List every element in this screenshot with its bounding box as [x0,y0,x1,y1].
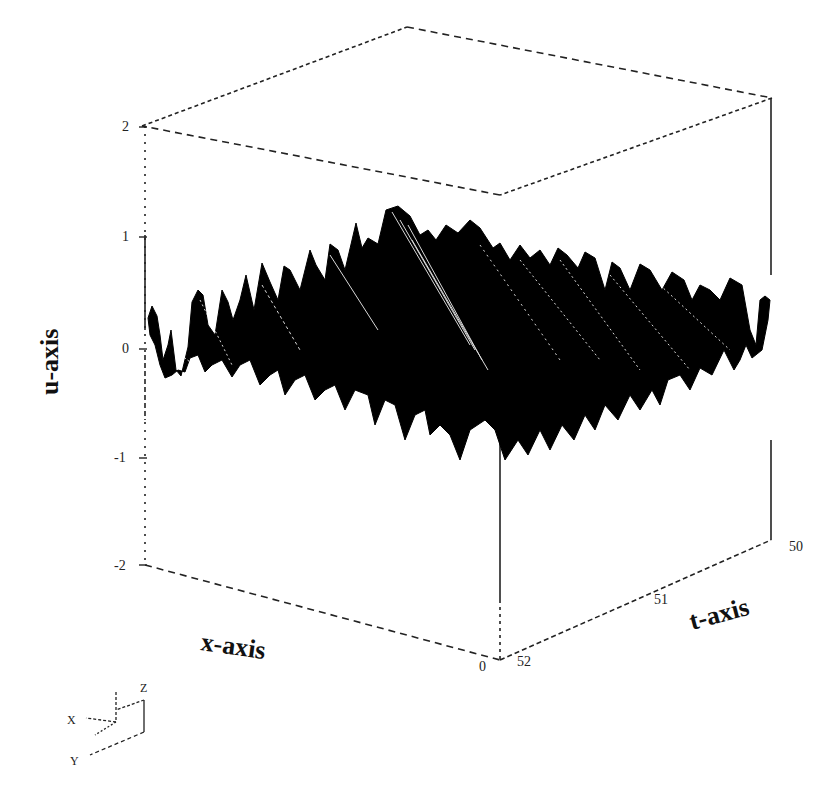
x-tick-0: 0 [479,659,486,674]
x-axis-label: x-axis [199,627,267,665]
orientation-axes-icon [86,692,144,755]
orient-x-label: X [67,713,76,727]
surface-plot-3d: Z X Y 2 1 0 -1 -2 0 52 51 50 x-axis t-ax… [0,0,837,802]
u-tick-1: 1 [122,229,129,244]
t-tick-51: 51 [654,592,668,607]
u-axis-label: u-axis [35,329,64,395]
u-tick-0: 0 [122,341,129,356]
t-tick-52: 52 [517,654,531,669]
t-tick-50: 50 [789,539,803,554]
t-axis-label: t-axis [686,592,752,636]
u-tick-neg2: -2 [114,558,126,573]
u-tick-2: 2 [122,119,129,134]
surface-mesh [148,206,770,460]
u-tick-neg1: -1 [114,450,126,465]
orient-z-label: Z [140,681,147,695]
u-axis-ticks [139,127,147,565]
orient-y-label: Y [70,754,79,768]
